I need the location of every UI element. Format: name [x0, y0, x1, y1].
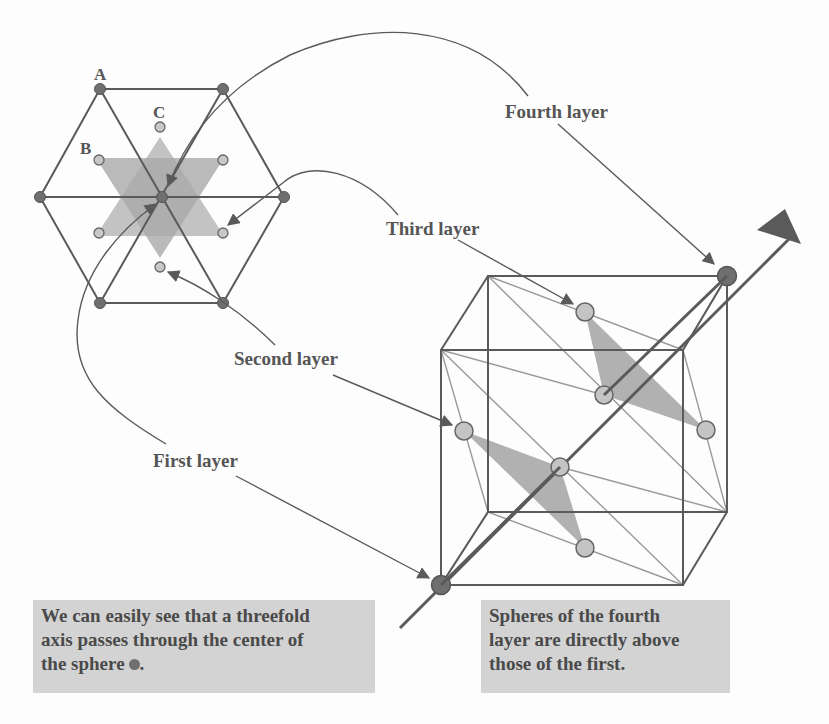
callout-arrows — [77, 32, 714, 578]
threefold-axis-note: We can easily see that a threefold axis … — [33, 600, 375, 693]
fourth-layer-label: Fourth layer — [505, 102, 608, 121]
note-line: axis passes through the center of — [41, 628, 367, 652]
cube-view — [400, 209, 801, 628]
axis-arrowhead-icon — [757, 209, 801, 244]
dark-sphere-icon — [129, 659, 140, 670]
note-line: We can easily see that a threefold — [41, 604, 367, 628]
point-label-b: B — [80, 140, 91, 157]
note-line: Spheres of the fourth — [489, 604, 722, 628]
point-label-a: A — [94, 66, 106, 83]
point-label-c: C — [153, 104, 165, 121]
note-line: the sphere. — [41, 652, 367, 676]
second-layer-cube-arrow — [333, 375, 452, 425]
third-layer-label: Third layer — [386, 219, 479, 238]
note-line: those of the first. — [489, 652, 722, 676]
cube-inner-spheres — [455, 303, 715, 557]
second-layer-label: Second layer — [234, 349, 338, 368]
first-layer-label: First layer — [153, 451, 238, 470]
note-line-end: . — [140, 653, 145, 674]
fourth-layer-note: Spheres of the fourth layer are directly… — [481, 600, 730, 693]
diagram-canvas: A B C Fourth layer Third layer Second la… — [0, 0, 829, 724]
fourth-layer-cube-arrow — [558, 124, 714, 264]
note-line-text: the sphere — [41, 653, 125, 674]
note-line: layer are directly above — [489, 628, 722, 652]
first-layer-cube-arrow — [236, 476, 429, 578]
third-layer-plane — [585, 312, 706, 430]
